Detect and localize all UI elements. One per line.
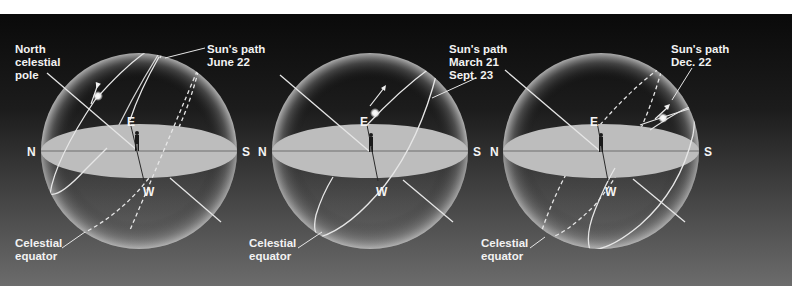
- svg-text:Celestial: Celestial: [249, 237, 296, 249]
- svg-text:pole: pole: [15, 69, 39, 81]
- sun-icon: [370, 108, 380, 118]
- sun-path-label: Sun's path: [671, 43, 729, 55]
- svg-text:equator: equator: [481, 250, 524, 262]
- equator-label: Celestial: [481, 237, 528, 249]
- north-label: N: [258, 145, 267, 159]
- celestial-sphere-diagram: North celestial pole Sun's path June 22 …: [0, 0, 792, 294]
- svg-text:Celestial: Celestial: [15, 237, 62, 249]
- svg-text:S: S: [473, 145, 481, 159]
- svg-text:Sun's path: Sun's path: [449, 43, 507, 55]
- sun-path-date: Dec. 22: [671, 56, 711, 68]
- svg-text:E: E: [127, 115, 135, 129]
- equator-label: Celestial: [15, 237, 62, 249]
- equator-label-2: equator: [249, 250, 292, 262]
- svg-text:N: N: [27, 145, 36, 159]
- svg-text:Sun's path: Sun's path: [207, 43, 265, 55]
- north-label: N: [490, 145, 499, 159]
- south-label: S: [704, 145, 712, 159]
- svg-text:E: E: [590, 115, 598, 129]
- sun-path-label: Sun's path: [449, 43, 507, 55]
- svg-text:N: N: [258, 145, 267, 159]
- svg-text:Celestial: Celestial: [481, 237, 528, 249]
- sun-path-date: June 22: [207, 56, 250, 68]
- equator-label: Celestial: [249, 237, 296, 249]
- west-label: W: [376, 185, 388, 199]
- svg-text:North: North: [15, 43, 46, 55]
- svg-text:E: E: [360, 115, 368, 129]
- south-label: S: [242, 145, 250, 159]
- sun-path-date: March 21: [449, 56, 499, 68]
- svg-text:W: W: [605, 185, 617, 199]
- equator-label-2: equator: [15, 250, 58, 262]
- svg-text:celestial: celestial: [15, 56, 60, 68]
- svg-text:Sept. 23: Sept. 23: [449, 69, 493, 81]
- east-label: E: [127, 115, 135, 129]
- west-label: W: [605, 185, 617, 199]
- equator-label-2: equator: [481, 250, 524, 262]
- east-label: E: [360, 115, 368, 129]
- svg-text:June 22: June 22: [207, 56, 250, 68]
- north-label: N: [27, 145, 36, 159]
- svg-text:S: S: [704, 145, 712, 159]
- pole-label-2: celestial: [15, 56, 60, 68]
- svg-text:equator: equator: [249, 250, 292, 262]
- svg-text:March 21: March 21: [449, 56, 499, 68]
- svg-text:W: W: [143, 185, 155, 199]
- svg-text:S: S: [242, 145, 250, 159]
- pole-label-3: pole: [15, 69, 39, 81]
- svg-text:W: W: [376, 185, 388, 199]
- pole-label: North: [15, 43, 46, 55]
- sun-path-date-2: Sept. 23: [449, 69, 493, 81]
- west-label: W: [143, 185, 155, 199]
- svg-text:Dec. 22: Dec. 22: [671, 56, 711, 68]
- sun-path-label: Sun's path: [207, 43, 265, 55]
- south-label: S: [473, 145, 481, 159]
- svg-text:N: N: [490, 145, 499, 159]
- svg-text:equator: equator: [15, 250, 58, 262]
- east-label: E: [590, 115, 598, 129]
- svg-text:Sun's path: Sun's path: [671, 43, 729, 55]
